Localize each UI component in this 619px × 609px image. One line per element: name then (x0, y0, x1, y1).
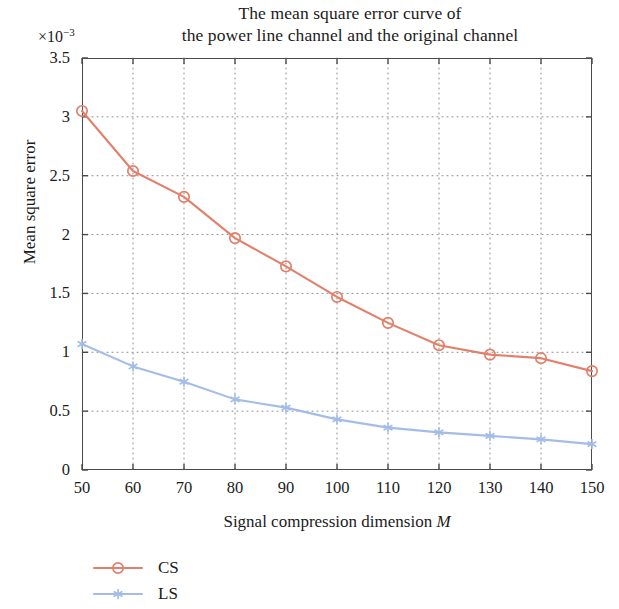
chart-title-line-2: the power line channel and the original … (100, 24, 600, 46)
chart-legend: CSLS (92, 555, 272, 607)
chart-figure: The mean square error curve of the power… (0, 0, 619, 609)
x-tick-label: 150 (580, 478, 605, 498)
legend-marker-cs (92, 558, 144, 578)
legend-label-cs: CS (158, 558, 179, 578)
legend-item-cs[interactable]: CS (92, 555, 272, 581)
y-tick-label: 3 (62, 107, 70, 127)
x-tick-label: 90 (278, 478, 295, 498)
y-axis-multiplier-exponent: −3 (63, 26, 75, 38)
legend-sample-glyph (92, 584, 144, 604)
x-tick-label: 140 (529, 478, 554, 498)
y-axis-multiplier-base: ×10 (38, 28, 63, 45)
plot-canvas (82, 58, 592, 470)
legend-sample-glyph (92, 558, 144, 578)
y-tick-label: 1.5 (49, 283, 70, 303)
y-tick-label: 2.5 (49, 166, 70, 186)
x-tick-label: 80 (227, 478, 244, 498)
x-axis-title-text: Signal compression dimension (223, 512, 432, 531)
x-axis-tick-labels: 5060708090100110120130140150 (82, 470, 592, 504)
x-tick-label: 130 (478, 478, 503, 498)
y-tick-label: 2 (62, 225, 70, 245)
x-tick-label: 100 (325, 478, 350, 498)
y-tick-label: 1 (62, 342, 70, 362)
gridlines (82, 58, 592, 470)
series-line-cs (82, 111, 592, 371)
plot-area (82, 58, 592, 470)
y-tick-label: 3.5 (49, 48, 70, 68)
y-tick-label: 0.5 (49, 401, 70, 421)
series-cs (77, 106, 597, 377)
y-axis-tick-labels: 00.511.522.533.5 (0, 58, 82, 470)
x-tick-label: 70 (176, 478, 193, 498)
legend-item-ls[interactable]: LS (92, 581, 272, 607)
y-axis-multiplier: ×10−3 (38, 26, 75, 46)
x-tick-label: 60 (125, 478, 142, 498)
x-tick-label: 50 (74, 478, 91, 498)
legend-label-ls: LS (158, 584, 178, 604)
legend-marker-ls (92, 584, 144, 604)
x-tick-label: 120 (427, 478, 452, 498)
x-axis-title: Signal compression dimension M (82, 512, 592, 532)
x-tick-label: 110 (376, 478, 400, 498)
y-tick-label: 0 (62, 460, 70, 480)
x-axis-title-symbol: M (436, 512, 450, 531)
chart-title-line-1: The mean square error curve of (100, 2, 600, 24)
data-series-layer (77, 106, 597, 449)
chart-title: The mean square error curve of the power… (100, 2, 600, 46)
